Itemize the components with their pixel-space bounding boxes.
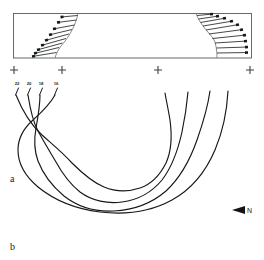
figure-canvas: a 22 20 18 16 bbox=[0, 0, 264, 260]
contour-line-20 bbox=[28, 92, 188, 203]
contour-label-22: 22 bbox=[15, 81, 20, 86]
station-marker-4 bbox=[246, 66, 254, 74]
north-arrow-icon bbox=[232, 206, 245, 214]
contour-line-18 bbox=[35, 91, 210, 211]
station-marker-2 bbox=[58, 66, 66, 74]
north-arrow-group: N bbox=[232, 206, 252, 214]
right-hachure-group bbox=[197, 14, 248, 53]
figure-container: a 22 20 18 16 bbox=[0, 0, 264, 260]
station-marker-1 bbox=[10, 66, 18, 74]
contour-label-16: 16 bbox=[54, 81, 59, 86]
contour-map-panel: 22 20 18 16 N bbox=[10, 81, 252, 252]
station-marker-row bbox=[10, 66, 254, 74]
cross-section-panel: a bbox=[10, 14, 254, 185]
panel-label-b: b bbox=[10, 241, 15, 252]
north-label: N bbox=[247, 207, 252, 214]
contour-label-20: 20 bbox=[27, 81, 32, 86]
station-marker-3 bbox=[154, 66, 162, 74]
left-hachure-group bbox=[32, 16, 78, 57]
contour-label-18: 18 bbox=[39, 81, 44, 86]
contour-leader-ticks bbox=[16, 88, 58, 95]
panel-label-a: a bbox=[10, 173, 15, 184]
